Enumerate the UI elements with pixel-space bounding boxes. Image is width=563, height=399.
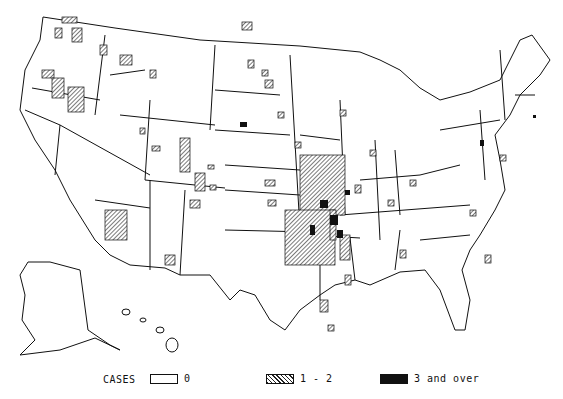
legend-label: 3 and over [414, 373, 479, 384]
legend-item-zero: 0 [150, 373, 191, 384]
state-outlines [20, 17, 550, 355]
legend-item-low: 1 - 2 [266, 373, 333, 384]
hatched-counties [42, 17, 506, 331]
legend-label: 0 [184, 373, 191, 384]
us-county-map [0, 0, 563, 360]
legend-item-high: 3 and over [380, 373, 479, 384]
empty-swatch-icon [150, 374, 178, 384]
hatched-swatch-icon [266, 374, 294, 384]
solid-counties [240, 115, 536, 238]
legend-title: CASES [103, 374, 136, 385]
legend-label: 1 - 2 [300, 373, 333, 384]
solid-swatch-icon [380, 374, 408, 384]
legend: CASES 0 1 - 2 3 and over [0, 368, 563, 390]
